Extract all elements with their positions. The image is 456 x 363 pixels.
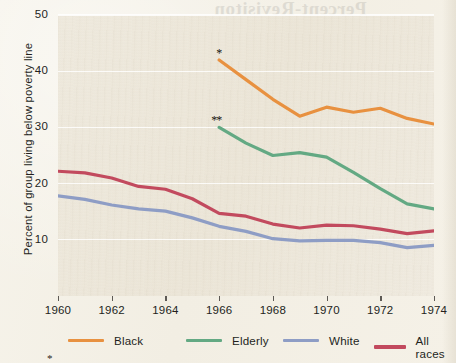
legend-label: All races [416,334,456,360]
x-axis-tick-mark [165,296,166,301]
series-lines [58,15,434,296]
x-axis-tick-label: 1968 [250,304,296,316]
annotation-asterisk: * [216,47,221,59]
plot-area: *** [58,15,434,296]
x-axis-tick-mark [112,296,113,301]
annotation-asterisk: ** [211,114,221,126]
legend-item-elderly[interactable]: Elderly [186,334,269,347]
x-axis-tick-mark [273,296,274,301]
x-axis-tick-mark [58,296,59,301]
footnote-marker: * [47,352,53,363]
y-axis-tick-label: 40 [8,64,48,76]
legend-label: Elderly [232,334,269,347]
legend-item-black[interactable]: Black [68,334,143,347]
legend-swatch [186,339,222,342]
y-axis-tick-label: 50 [8,8,48,20]
x-axis-tick-mark [327,296,328,301]
x-axis-tick-mark [380,296,381,301]
x-axis-tick-label: 1966 [196,304,242,316]
series-line-all-races [58,171,434,233]
series-line-black [219,60,434,124]
x-axis-tick-label: 1960 [35,304,81,316]
legend-swatch [68,339,104,342]
x-axis-tick-mark [219,296,220,301]
legend-label: White [329,334,360,347]
y-axis-tick-label: 10 [8,233,48,245]
x-axis: 19601962196419661968197019721974 [0,296,456,326]
chart-page: Percent-Revisiton the national poverty r… [0,0,456,363]
y-axis-tick-label: 30 [8,120,48,132]
legend-swatch [283,339,319,342]
legend-item-white[interactable]: White [283,334,360,347]
x-axis-tick-label: 1962 [89,304,135,316]
x-axis-tick-label: 1972 [357,304,403,316]
x-axis-tick-label: 1964 [142,304,188,316]
legend-label: Black [114,334,143,347]
series-line-white [58,196,434,248]
y-axis-tick-label: 20 [8,177,48,189]
x-axis-tick-label: 1970 [304,304,350,316]
x-axis-tick-label: 1974 [411,304,456,316]
legend-swatch [374,345,406,348]
x-axis-tick-mark [434,296,435,301]
chart-legend: BlackElderlyWhiteAll races [0,330,456,350]
series-line-elderly [219,127,434,208]
legend-item-all-races[interactable]: All races [374,334,456,360]
